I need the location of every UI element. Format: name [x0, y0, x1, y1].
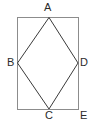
- inner-rhombus: [18, 18, 79, 110]
- vertex-label-e: E: [80, 110, 87, 121]
- outer-rectangle: [18, 18, 79, 110]
- vertex-label-b: B: [7, 57, 14, 68]
- vertex-label-c: C: [45, 110, 53, 121]
- geometry-figure: A B D C E: [0, 0, 94, 123]
- vertex-label-d: D: [80, 57, 88, 68]
- vertex-label-a: A: [44, 2, 51, 13]
